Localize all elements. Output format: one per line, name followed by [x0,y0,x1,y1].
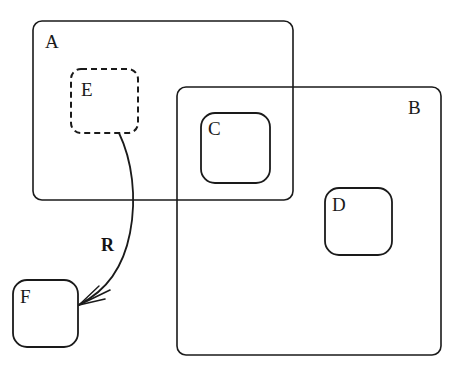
diagram-svg [0,0,468,374]
region-a-label: A [45,32,59,51]
region-d-label: D [332,195,346,214]
region-c-label: C [208,119,221,138]
region-f-label: F [20,287,31,306]
region-a-shape[interactable] [33,21,293,200]
region-b-label: B [408,98,421,117]
relation-r-label: R [101,236,114,254]
region-e-label: E [81,80,93,99]
diagram-canvas: A B E C D F R [0,0,468,374]
relation-r-curve[interactable] [80,133,133,304]
